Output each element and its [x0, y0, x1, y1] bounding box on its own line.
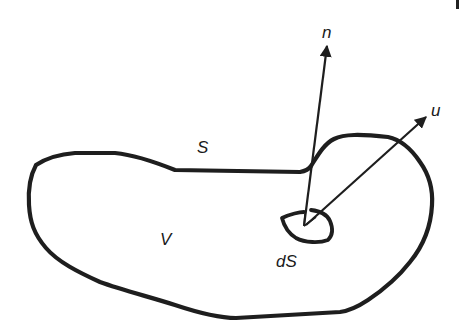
- surface-label: S: [197, 139, 208, 156]
- control-volume-diagram: [0, 0, 463, 336]
- control-surface-outline: [29, 135, 432, 318]
- volume-label: V: [160, 231, 171, 248]
- normal-vector-arrow: [304, 46, 327, 226]
- velocity-label: u: [431, 102, 440, 119]
- normal-label: n: [322, 24, 331, 41]
- surface-element-label: dS: [276, 253, 297, 270]
- surface-element-loop: [282, 210, 332, 242]
- page-edge-mark: [456, 0, 459, 9]
